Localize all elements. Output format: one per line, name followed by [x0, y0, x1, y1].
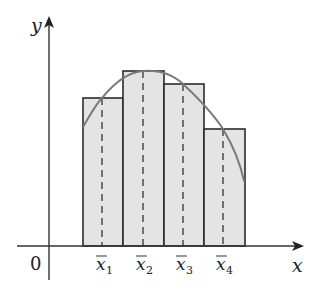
svg-text:3: 3: [186, 264, 193, 277]
svg-text:x: x: [176, 254, 186, 274]
svg-text:2: 2: [146, 264, 153, 277]
svg-text:4: 4: [226, 264, 233, 277]
sample-point-label-4: x 4: [216, 254, 233, 277]
x-axis-label: x: [292, 254, 303, 276]
y-axis-label: y: [30, 14, 42, 36]
sample-point-label-3: x 3: [176, 254, 193, 277]
rectangle-4: [204, 129, 245, 246]
svg-text:1: 1: [106, 264, 113, 277]
svg-text:x: x: [96, 254, 106, 274]
sample-point-labels: x 1 x 2 x 3 x 4: [96, 254, 233, 277]
rectangles: [83, 71, 245, 246]
riemann-sum-diagram: y x 0 x 1 x 2 x 3 x 4: [0, 0, 320, 293]
rectangle-1: [83, 98, 123, 246]
sample-point-label-2: x 2: [136, 254, 153, 277]
svg-text:x: x: [216, 254, 226, 274]
origin-label: 0: [30, 253, 41, 274]
rectangle-3: [164, 84, 204, 246]
svg-text:x: x: [136, 254, 146, 274]
sample-point-label-1: x 1: [96, 254, 113, 277]
